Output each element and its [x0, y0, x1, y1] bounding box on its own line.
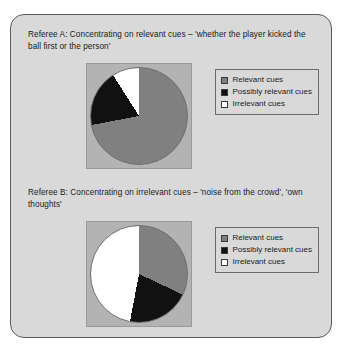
- panel-referee-b: Referee B: Concentrating on irrelevant c…: [11, 181, 331, 339]
- legend-label-irrelevant-cues: Irrelevant cues: [232, 98, 284, 110]
- relevant-swatch-icon: [221, 77, 228, 84]
- relevant-swatch-icon: [221, 235, 228, 242]
- legend-referee-b: Relevant cues Possibly relevant cues Irr…: [215, 227, 319, 273]
- pie-chart-referee-a: [90, 67, 188, 165]
- legend-item-relevant-cues[interactable]: Relevant cues: [221, 232, 312, 244]
- pie-chart-referee-b: [90, 225, 188, 323]
- panel-title-referee-a: Referee A: Concentrating on relevant cue…: [28, 29, 314, 52]
- panel-referee-a: Referee A: Concentrating on relevant cue…: [11, 23, 331, 181]
- legend-item-relevant-cues[interactable]: Relevant cues: [221, 74, 312, 86]
- legend-item-irrelevant-cues[interactable]: Irrelevant cues: [221, 256, 312, 268]
- panel-title-referee-b: Referee B: Concentrating on irrelevant c…: [28, 187, 314, 210]
- legend-item-possibly-relevant-cues[interactable]: Possibly relevant cues: [221, 244, 312, 256]
- irrelevant-swatch-icon: [221, 101, 228, 108]
- legend-item-irrelevant-cues[interactable]: Irrelevant cues: [221, 98, 312, 110]
- plot-area-referee-b: [86, 221, 192, 327]
- plot-area-referee-a: [86, 63, 192, 169]
- legend-label-relevant-cues: Relevant cues: [232, 74, 283, 86]
- possibly-relevant-swatch-icon: [221, 247, 228, 254]
- legend-label-possibly-relevant-cues: Possibly relevant cues: [232, 244, 312, 256]
- irrelevant-swatch-icon: [221, 259, 228, 266]
- legend-item-possibly-relevant-cues[interactable]: Possibly relevant cues: [221, 86, 312, 98]
- legend-label-relevant-cues: Relevant cues: [232, 232, 283, 244]
- legend-referee-a: Relevant cues Possibly relevant cues Irr…: [215, 69, 319, 115]
- possibly-relevant-swatch-icon: [221, 89, 228, 96]
- figure-container: Referee A: Concentrating on relevant cue…: [10, 14, 332, 338]
- legend-label-possibly-relevant-cues: Possibly relevant cues: [232, 86, 312, 98]
- legend-label-irrelevant-cues: Irrelevant cues: [232, 256, 284, 268]
